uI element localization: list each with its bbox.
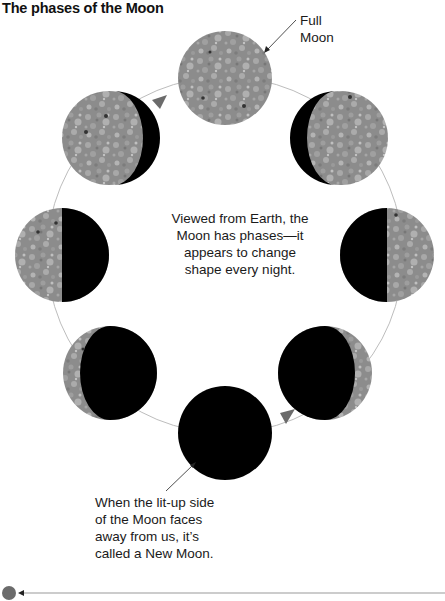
full-moon-label: Full Moon bbox=[300, 12, 334, 46]
new-moon-caption: When the lit-up side of the Moon faces a… bbox=[95, 494, 235, 562]
center-caption: Viewed from Earth, the Moon has phases—i… bbox=[150, 210, 330, 278]
full-moon-pointer bbox=[267, 20, 296, 50]
timeline-dot bbox=[2, 586, 16, 600]
timeline-arrowhead-icon bbox=[18, 590, 24, 596]
moon-waning-gibbous bbox=[62, 91, 160, 185]
moon-full bbox=[178, 31, 272, 125]
moon-first-quarter bbox=[340, 208, 434, 302]
direction-arrow-icon bbox=[152, 95, 167, 109]
moon-third-quarter bbox=[15, 208, 109, 302]
moon-waning-crescent bbox=[63, 326, 157, 420]
moon-waxing-crescent bbox=[278, 326, 372, 420]
moon-waxing-gibbous bbox=[290, 91, 388, 185]
arrowhead-icon bbox=[264, 46, 270, 53]
new-moon-pointer bbox=[166, 464, 194, 491]
